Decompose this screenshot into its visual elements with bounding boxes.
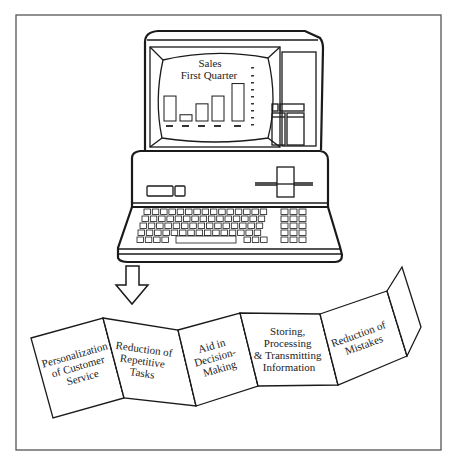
computer-illustration: Sales First Quarter (118, 31, 342, 262)
screen-bar (180, 115, 192, 121)
screen-bar-chart (164, 84, 244, 127)
screen-bar (196, 104, 208, 121)
screen-bar (164, 96, 176, 121)
screen-bar (232, 84, 244, 121)
screen-title-sales: Sales (198, 57, 221, 69)
folded-brochure: Personalization of Customer Service Redu… (31, 267, 421, 418)
spacebar (176, 236, 236, 243)
screen-title-quarter: First Quarter (181, 69, 238, 81)
drive-slot-2 (175, 186, 185, 196)
screen-y-ticks (251, 67, 254, 126)
drive-slot-1 (147, 186, 173, 196)
figure-illustration: Sales First Quarter (0, 0, 454, 460)
down-arrow-icon (116, 266, 148, 304)
base-unit (132, 151, 328, 207)
screen-bar (212, 96, 224, 121)
